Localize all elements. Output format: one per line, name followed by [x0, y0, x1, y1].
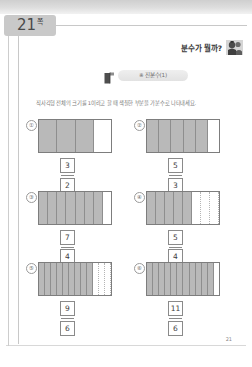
section-banner-pill: ※ 진분수(1) — [118, 70, 188, 81]
problem-2: ②53 — [130, 118, 238, 190]
shaded-cell — [76, 192, 85, 224]
empty-cell — [103, 192, 111, 224]
fraction-answer: 32 — [60, 158, 75, 193]
shaded-cell — [171, 120, 183, 152]
problem-number: ① — [26, 120, 37, 131]
shaded-cell — [174, 192, 183, 224]
header-question-text: 분수가 뭘까? — [181, 42, 222, 53]
section-banner: ※ 진분수(1) — [104, 68, 188, 82]
problem-number: ⑤ — [26, 263, 37, 274]
shaded-cell — [147, 120, 159, 152]
problem-5: ⑤96 — [22, 261, 130, 333]
empty-cell — [208, 120, 219, 152]
header-question: 분수가 뭘까? — [140, 36, 244, 58]
shaded-cell — [39, 120, 57, 152]
shaded-cell — [94, 192, 103, 224]
shaded-cell — [66, 192, 75, 224]
page-tab-suffix: 쪽 — [37, 19, 43, 26]
fraction-line — [169, 247, 182, 248]
problem-number: ③ — [26, 192, 37, 203]
shaded-cell — [57, 120, 75, 152]
left-vertical-rule — [8, 36, 9, 346]
numerator-box[interactable]: 3 — [60, 158, 75, 173]
denominator-box[interactable]: 6 — [60, 321, 75, 336]
problem-6: ⑥116 — [130, 261, 238, 333]
fraction-answer: 116 — [168, 301, 183, 336]
fraction-answer: 74 — [60, 230, 75, 265]
fraction-line — [61, 247, 74, 248]
fraction-bar-diagram — [38, 191, 112, 225]
shaded-cell — [39, 192, 48, 224]
empty-cell — [201, 192, 210, 224]
shaded-cell — [183, 192, 192, 224]
problem-number: ⑥ — [134, 263, 145, 274]
problem-3: ③74 — [22, 190, 130, 262]
shaded-cell — [85, 192, 94, 224]
denominator-box[interactable]: 6 — [168, 321, 183, 336]
empty-cell — [192, 192, 201, 224]
frame-bottom-rule — [6, 345, 246, 346]
footer-page-number: 21 — [0, 336, 232, 342]
top-gray-band — [0, 0, 252, 14]
numerator-box[interactable]: 11 — [168, 301, 183, 316]
problem-1: ①32 — [22, 118, 130, 190]
page-tab: 21 쪽 — [4, 15, 56, 36]
numerator-box[interactable]: 5 — [168, 230, 183, 245]
shaded-cell — [48, 192, 57, 224]
fraction-bar-diagram — [38, 119, 112, 153]
fraction-answer: 53 — [168, 158, 183, 193]
fraction-bar-diagram — [146, 262, 220, 296]
problem-number: ④ — [134, 192, 145, 203]
empty-cell — [94, 120, 111, 152]
empty-cell — [214, 263, 219, 295]
fraction-bar-diagram — [38, 262, 112, 296]
fraction-line — [169, 318, 182, 319]
empty-cell — [105, 263, 111, 295]
fraction-answer: 54 — [168, 230, 183, 265]
shaded-cell — [165, 192, 174, 224]
empty-cell — [210, 192, 219, 224]
shaded-cell — [147, 192, 156, 224]
flag-icon — [104, 69, 115, 81]
numerator-box[interactable]: 9 — [60, 301, 75, 316]
shaded-cell — [196, 120, 208, 152]
page-tab-number: 21 — [17, 18, 36, 33]
shaded-cell — [184, 120, 196, 152]
fraction-line — [61, 175, 74, 176]
numerator-box[interactable]: 7 — [60, 230, 75, 245]
fraction-line — [169, 175, 182, 176]
shaded-cell — [57, 192, 66, 224]
fraction-answer: 96 — [60, 301, 75, 336]
shaded-cell — [76, 120, 94, 152]
numerator-box[interactable]: 5 — [168, 158, 183, 173]
problem-4: ④54 — [130, 190, 238, 262]
shaded-cell — [159, 120, 171, 152]
fraction-line — [61, 318, 74, 319]
section-banner-title: ※ 진분수(1) — [139, 71, 167, 79]
student-character-icon — [225, 39, 244, 56]
fraction-bar-diagram — [146, 119, 220, 153]
shaded-cell — [156, 192, 165, 224]
fraction-bar-diagram — [146, 191, 220, 225]
problem-number: ② — [134, 120, 145, 131]
instruction-text: 직사각형 전체의 크기를 1이라고 할 때 색칠한 부분을 가분수로 나타내세요… — [36, 99, 226, 107]
problem-grid: ①32②53③74④54⑤96⑥116 — [22, 118, 238, 333]
